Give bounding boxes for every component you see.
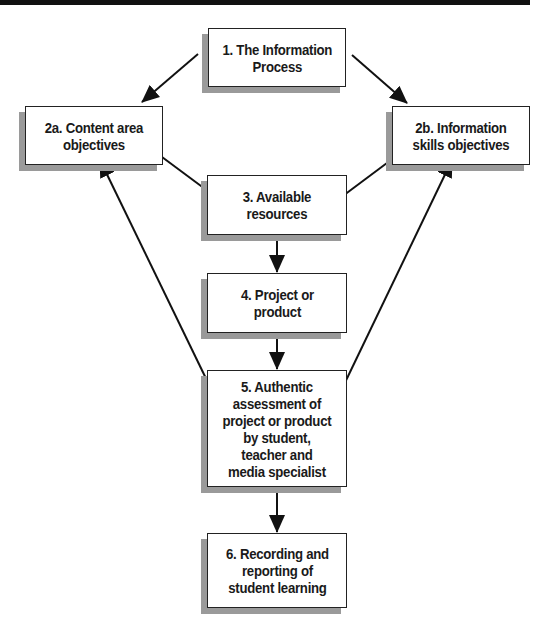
node-label: 5. Authentic assessment of project or pr… — [223, 378, 332, 480]
node-available-resources: 3. Available resources — [207, 175, 347, 235]
node-authentic-assessment: 5. Authentic assessment of project or pr… — [207, 370, 347, 487]
node-label: 3. Available resources — [243, 188, 312, 222]
node-project-or-product: 4. Project or product — [207, 273, 347, 333]
node-label: 1. The Information Process — [222, 41, 332, 75]
node-recording-and-reporting: 6. Recording and reporting of student le… — [207, 533, 347, 608]
node-label: 4. Project or product — [241, 286, 314, 320]
arrow-1-to-2a — [142, 54, 198, 102]
node-label: 2b. Information skills objectives — [413, 119, 510, 153]
node-content-area-objectives: 2a. Content area objectives — [25, 106, 163, 165]
node-label: 2a. Content area objectives — [45, 119, 143, 153]
arrow-1-to-2b — [352, 55, 407, 103]
arrow-5-to-2b — [339, 160, 452, 395]
node-information-process: 1. The Information Process — [208, 28, 346, 87]
arrow-5-to-2a — [100, 160, 214, 395]
node-information-skills-objectives: 2b. Information skills objectives — [392, 106, 530, 165]
node-label: 6. Recording and reporting of student le… — [226, 545, 329, 596]
